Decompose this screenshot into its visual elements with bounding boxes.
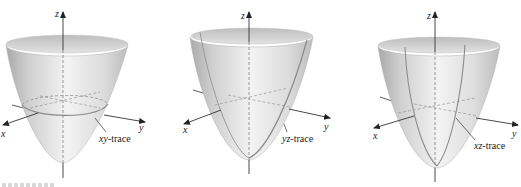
panel-yz-trace: z x y yz-trace	[182, 10, 330, 174]
y-axis	[289, 109, 330, 118]
rim-opening	[6, 35, 128, 53]
x-axis-label: x	[182, 124, 188, 135]
yz-trace-label: yz-trace	[281, 133, 314, 144]
panel-xy-trace: z x y xy-trace	[0, 8, 145, 178]
y-axis-label: y	[323, 121, 329, 132]
y-axis-label: y	[138, 122, 144, 133]
y-axis	[104, 115, 145, 122]
paraboloid-traces-figure: z x y xy-trace z x y yz-trace	[0, 0, 521, 187]
y-axis-label: y	[511, 128, 517, 139]
rim-opening	[378, 37, 500, 53]
rim-opening	[191, 28, 313, 44]
x-axis-label: x	[0, 128, 6, 139]
z-axis-label: z	[426, 10, 431, 21]
xz-trace-label: xz-trace	[473, 140, 506, 151]
xy-trace-label: xy-trace	[98, 133, 131, 144]
z-axis-label: z	[240, 10, 245, 21]
z-axis-label: z	[54, 8, 59, 19]
y-axis	[476, 118, 518, 125]
panel-xz-trace: z x y xz-trace	[372, 10, 518, 182]
figure-canvas: z x y xy-trace z x y yz-trace	[0, 0, 521, 187]
cropped-caption	[2, 183, 56, 187]
paraboloid-surface	[6, 45, 128, 163]
x-axis-label: x	[372, 130, 378, 141]
trace-leader-line	[284, 124, 287, 132]
